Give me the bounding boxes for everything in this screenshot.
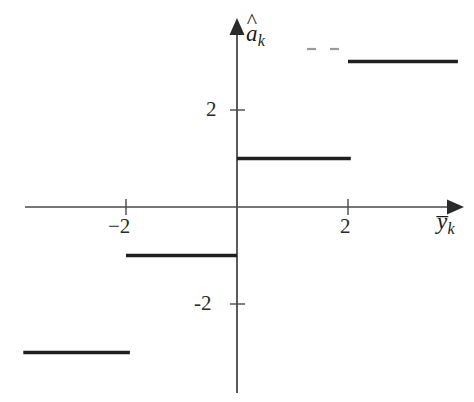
y-axis-label-subscript: k (258, 32, 265, 49)
x-axis-label-base-wrap: –y (437, 210, 447, 233)
quantizer-characteristic-figure: ^ak –yk 2 -2 −2 2 (0, 0, 474, 402)
bar-accent-icon: – (437, 203, 448, 226)
x-tick-label-2: 2 (340, 216, 351, 237)
x-axis-label-subscript: k (448, 220, 455, 237)
y-tick-label-minus2: -2 (194, 293, 212, 314)
y-axis-arrowhead (230, 18, 245, 35)
hat-accent-icon: ^ (247, 11, 257, 33)
plot-canvas (0, 0, 474, 402)
y-axis-label: ^ak (246, 22, 265, 45)
x-tick-label-minus2: −2 (108, 216, 130, 237)
x-axis-label: –yk (437, 210, 454, 233)
y-axis-label-base-wrap: ^a (246, 22, 258, 45)
y-tick-label-2: 2 (206, 99, 217, 120)
